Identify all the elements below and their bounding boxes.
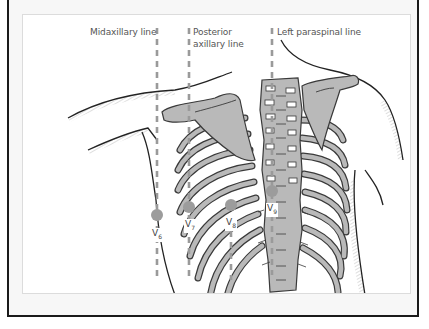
lead-subscript: 8 bbox=[232, 222, 236, 229]
lead-label-v6: V6 bbox=[151, 228, 163, 242]
label-midaxillary-line: Midaxillary line bbox=[90, 26, 156, 38]
label-posterior-axillary-line: Posterior axillary line bbox=[193, 26, 244, 50]
lead-subscript: 7 bbox=[191, 224, 195, 231]
scapula-left bbox=[162, 94, 255, 161]
lead-subscript: 9 bbox=[273, 208, 277, 215]
label-posterior-axillary-line-2: axillary line bbox=[193, 38, 244, 50]
label-left-paraspinal-line: Left paraspinal line bbox=[277, 26, 361, 38]
label-posterior-axillary-line-1: Posterior bbox=[193, 26, 244, 38]
lead-subscript: 6 bbox=[158, 233, 162, 240]
electrode-v9 bbox=[266, 185, 278, 197]
lead-label-v7: V7 bbox=[184, 219, 196, 233]
electrode-v6 bbox=[151, 209, 163, 221]
lead-label-v9: V9 bbox=[266, 203, 278, 217]
spine bbox=[258, 78, 308, 292]
electrode-v8 bbox=[225, 199, 237, 211]
electrode-v7 bbox=[183, 201, 195, 213]
lead-label-v8: V8 bbox=[225, 217, 237, 231]
